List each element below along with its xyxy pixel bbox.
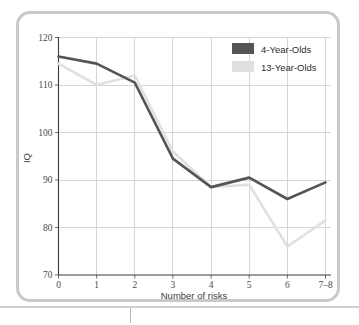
y-tick-label: 70 [43,270,53,280]
legend-label-1: 13-Year-Olds [261,62,317,73]
x-tick-label: 3 [171,280,176,290]
x-tick-label: 0 [56,280,61,290]
y-tick-label: 100 [38,128,53,138]
x-tick-label: 6 [285,280,290,290]
y-tick-label: 90 [43,175,53,185]
x-tick-labels-group: 01234567–8 [56,280,333,290]
x-tick-label: 5 [247,280,252,290]
series-line-4-year-olds [59,57,326,200]
legend-swatch-1 [232,61,254,72]
legend: 4-Year-Olds13-Year-Olds [232,43,317,73]
iq-risks-line-chart: 708090100110120 01234567–8 Number of ris… [0,0,359,325]
gridlines-group [59,37,332,275]
y-tick-label: 80 [43,223,53,233]
y-tick-label: 110 [39,80,53,90]
y-tick-labels-group: 708090100110120 [38,33,53,281]
series-line-13-year-olds [59,64,326,247]
legend-swatch-0 [232,43,254,54]
legend-label-0: 4-Year-Olds [261,44,312,55]
x-tick-label: 4 [209,280,214,290]
x-tick-label: 7–8 [318,280,333,290]
x-tick-label: 2 [132,280,137,290]
y-tick-label: 120 [38,33,53,43]
y-axis-title: IQ [21,153,32,163]
x-axis-title: Number of risks [161,290,228,301]
x-tick-label: 1 [94,280,99,290]
